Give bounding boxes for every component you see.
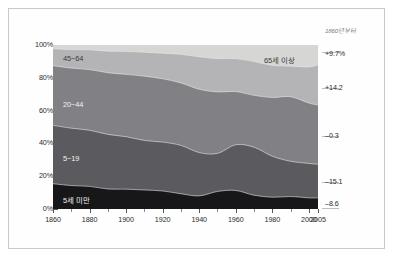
change-since-column: 1860년부터 +9.7% +14.2 –0.3 –15.1 –8.6 [322,26,384,216]
change-value-5-19: –15.1 [325,177,343,186]
x-axis-tick [199,209,200,213]
chart-figure: 100%80%60%40%20%0% 65세 이상 45~64 20~44 5~… [0,0,393,257]
x-axis-minor-tick [144,209,145,212]
x-axis-label: 1980 [252,215,292,224]
y-axis-label: 40% [19,139,53,147]
x-axis-minor-tick [71,209,72,212]
change-rule [322,208,339,209]
y-axis-label: 80% [19,74,53,82]
x-axis-minor-tick [291,209,292,212]
x-axis-tick [90,209,91,213]
change-value-under5: –8.6 [325,199,339,208]
x-axis-minor-tick [181,209,182,212]
stacked-area-plot [53,45,318,209]
x-axis-label: 1880 [70,215,110,224]
x-axis-tick [126,209,127,213]
x-axis-minor-tick [108,209,109,212]
x-axis-tick [53,209,54,213]
y-axis-label: 20% [19,172,53,180]
change-value-over65: +9.7% [325,49,345,58]
x-axis-label: 1960 [216,215,256,224]
stacked-area-svg [53,45,318,209]
change-value-20-44: –0.3 [325,131,339,140]
x-axis-label: 1920 [143,215,183,224]
x-axis-tick [309,209,310,213]
x-axis-minor-tick [254,209,255,212]
y-axis-label: 0% [19,205,53,213]
y-axis-label: 100% [19,41,53,49]
change-value-45-64: +14.2 [325,83,343,92]
x-axis-label: 1860 [33,215,73,224]
x-axis-tick [163,209,164,213]
x-axis: 186018801900192019401960198020002005 [53,209,329,231]
change-column-header: 1860년부터 [325,26,355,35]
x-axis-label: 1940 [179,215,219,224]
x-axis-minor-tick [217,209,218,212]
x-axis-label: 2005 [298,215,338,224]
x-axis-label: 1900 [106,215,146,224]
y-axis-label: 60% [19,107,53,115]
x-axis-tick [272,209,273,213]
x-axis-tick [236,209,237,213]
x-axis-tick [318,209,319,213]
y-axis: 100%80%60%40%20%0% [8,45,53,209]
